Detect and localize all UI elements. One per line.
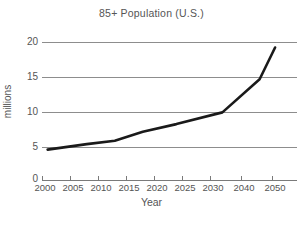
chart-title: 85+ Population (U.S.) — [0, 7, 303, 19]
caption-partial — [6, 217, 296, 225]
gridline-15 — [42, 77, 297, 78]
y-tick-label-15: 15 — [12, 72, 38, 82]
x-tick-label-2000: 2000 — [34, 183, 55, 193]
x-tick-2040 — [241, 176, 242, 181]
x-tick-2030 — [210, 176, 211, 181]
x-tick-label-2010: 2010 — [90, 183, 111, 193]
x-tick-2005 — [70, 176, 71, 181]
x-tick-label-2050: 2050 — [264, 183, 285, 193]
x-tick-2015 — [126, 176, 127, 181]
x-axis-line — [42, 180, 297, 181]
x-tick-2010 — [98, 176, 99, 181]
x-axis-origin-cap — [42, 176, 43, 181]
y-tick-label-20: 20 — [12, 37, 38, 47]
x-tick-label-2025: 2025 — [174, 183, 195, 193]
x-tick-2020 — [154, 176, 155, 181]
gridline-10 — [42, 112, 297, 113]
x-tick-label-2015: 2015 — [118, 183, 139, 193]
x-tick-label-2005: 2005 — [62, 183, 83, 193]
x-tick-label-2030: 2030 — [202, 183, 223, 193]
gridline-5 — [42, 147, 297, 148]
x-tick-label-2040: 2040 — [233, 183, 254, 193]
chart-figure: 85+ Population (U.S.) millions 20 15 10 … — [0, 0, 303, 225]
plot-area — [42, 38, 297, 182]
x-tick-2025 — [182, 176, 183, 181]
x-tick-label-2020: 2020 — [146, 183, 167, 193]
x-axis-label: Year — [0, 196, 303, 208]
y-tick-label-5: 5 — [12, 142, 38, 152]
x-tick-2050 — [272, 176, 273, 181]
y-tick-label-10: 10 — [12, 107, 38, 117]
gridline-20 — [42, 42, 297, 43]
